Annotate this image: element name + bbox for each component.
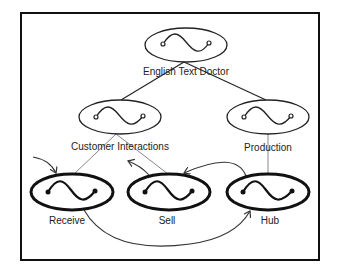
node-label: Customer Interactions [71,141,169,152]
node-label: Hub [261,215,280,226]
process-diagram: English Text Doctor Customer Interaction… [0,0,338,280]
node-label: English Text Doctor [143,66,230,77]
node-customer-interactions[interactable]: Customer Interactions [71,100,169,152]
node-english-text-doctor[interactable]: English Text Doctor [143,28,230,77]
node-label: Production [244,142,292,153]
node-label: Sell [159,215,176,226]
node-label: Receive [49,215,86,226]
